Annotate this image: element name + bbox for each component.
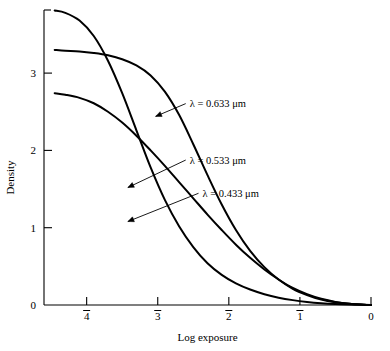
leader-arrowhead <box>156 112 163 117</box>
x-tick-label: 4 <box>84 310 90 322</box>
y-tick-label: 3 <box>31 67 37 79</box>
characteristic-curve-figure: 012343210 λ = 0.633 μmλ = 0.533 μmλ = 0.… <box>0 0 390 351</box>
leader-arrowhead <box>128 183 135 188</box>
y-tick-label: 1 <box>31 222 37 234</box>
curve-lambda-0.533 <box>55 93 371 305</box>
x-tick-label: 2 <box>226 310 232 322</box>
y-axis-title: Density <box>4 160 16 195</box>
y-tick-label: 2 <box>31 144 37 156</box>
series-label: λ = 0.433 μm <box>203 188 259 199</box>
chart-canvas: 012343210 λ = 0.633 μmλ = 0.533 μmλ = 0.… <box>0 0 390 351</box>
x-tick-label: 0 <box>368 310 374 322</box>
series-label: λ = 0.633 μm <box>190 98 246 109</box>
y-tick-label: 0 <box>31 299 37 311</box>
x-tick-label: 3 <box>155 310 161 322</box>
leader-arrowhead <box>128 217 135 222</box>
series-label: λ = 0.533 μm <box>190 155 246 166</box>
x-axis-title: Log exposure <box>177 331 237 343</box>
curve-lambda-0.633 <box>55 50 371 305</box>
x-tick-label: 1 <box>297 310 303 322</box>
